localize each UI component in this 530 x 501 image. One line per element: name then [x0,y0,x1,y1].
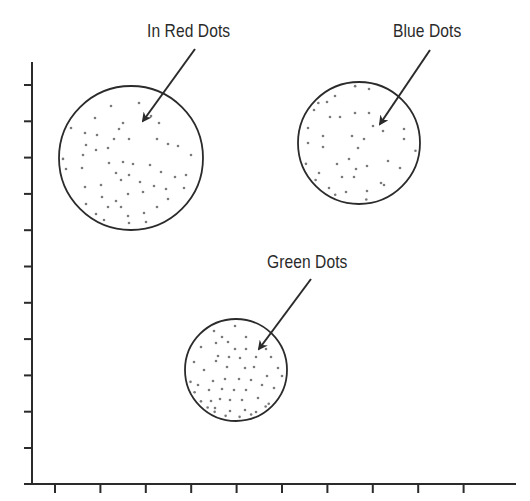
cluster-red-dot [113,138,116,141]
cluster-red-dot [174,176,177,179]
cluster-blue-dot [368,88,371,91]
cluster-green-dot [255,411,258,414]
cluster-blue-dot [414,149,417,152]
cluster-red [59,49,203,230]
cluster-green-dot [264,405,267,408]
cluster-blue-dot [357,147,360,150]
cluster-green-dot [239,357,242,360]
x-axis-ticks [55,484,464,493]
cluster-blue-dot [366,190,369,193]
cluster-red-dot [108,162,111,165]
cluster-red-dot [142,191,145,194]
cluster-green-dot [267,402,270,405]
cluster-green-dot [233,389,236,392]
cluster-green-label: Green Dots [267,251,347,273]
cluster-red-dot [128,138,131,141]
cluster-red-dot [96,134,99,137]
cluster-red-dot [139,181,142,184]
cluster-green-dot [215,360,218,363]
cluster-red-dot [65,168,68,171]
cluster-green-circle [185,319,287,421]
cluster-green-dot [229,410,232,413]
cluster-green-dot [238,378,241,381]
cluster-red-dot [165,188,168,191]
cluster-blue-dot [351,135,354,138]
cluster-red-dot [143,212,146,215]
cluster-red-dot [122,161,125,164]
cluster-green-dot [210,400,213,403]
cluster-green-dot [245,348,248,351]
cluster-blue-dot [305,163,308,166]
cluster-red-dot [95,213,98,216]
cluster-blue-dot [403,138,406,141]
cluster-blue-dot [365,198,368,201]
cluster-green-dot [215,342,218,345]
y-axis [24,62,32,484]
cluster-green-dot [212,380,215,383]
cluster-red-dot [158,122,161,125]
cluster-red-dot [185,174,188,177]
cluster-blue-dot [387,160,390,163]
cluster-green-dots [189,325,283,418]
cluster-red-dot [120,179,123,182]
cluster-blue-dot [307,127,310,130]
cluster-blue-dot [334,95,337,98]
cluster-red-dot [190,154,193,157]
cluster-blue-dot [355,168,358,171]
cluster-blue-dot [334,194,337,197]
cluster-blue-dot [314,179,317,182]
cluster-green-dot [245,389,248,392]
cluster-green-dot [214,407,217,410]
cluster-red-dot [115,200,118,203]
cluster-red-dots [62,102,193,225]
cluster-red-dot [132,163,135,166]
cluster-green-dot [228,356,231,359]
cluster-red-dot [94,117,97,120]
cluster-red-dot [128,174,131,177]
cluster-red-dot [103,219,106,222]
cluster-red-dot [153,185,156,188]
cluster-blue-dot [383,184,386,187]
cluster-blue-dot [317,102,320,105]
cluster-green-dot [221,388,224,391]
cluster-green-dot [273,387,276,390]
cluster-blue-dot [307,142,310,145]
cluster-blue-dot [329,116,332,119]
cluster-green-dot [189,381,192,384]
cluster-blue-dot [354,112,357,115]
cluster-red-dot [84,186,87,189]
cluster-green-dot [193,361,196,364]
cluster-red-dot [150,115,153,118]
cluster-green-dot [200,346,203,349]
cluster-blue-dot [313,109,316,112]
cluster-red-dot [156,138,159,141]
cluster-blue-dot [348,158,351,161]
cluster-green-dot [227,341,230,344]
y-axis-ticks [24,85,32,448]
cluster-blue-dot [322,146,325,149]
cluster-red-dot [84,132,87,135]
cluster-blue-dots [305,85,417,201]
cluster-red-dot [70,127,73,130]
cluster-blue-dot [368,112,371,115]
cluster-blue-dot [382,130,385,133]
cluster-green-dot [238,416,241,419]
cluster-green-dot [224,378,227,381]
cluster-red-dot [81,167,84,170]
cluster-red-dot [149,164,152,167]
cluster-red-dot [145,221,148,224]
cluster-red-dot [110,105,113,108]
cluster-green-dot [265,348,268,351]
cluster-blue-arrow [380,50,430,124]
cluster-red-dot [156,206,159,209]
cluster-red-dot [127,215,130,218]
cluster-red-dot [127,193,130,196]
cluster-blue-dot [339,116,342,119]
cluster-green-dot [257,397,260,400]
cluster-blue-dot [380,182,383,185]
cluster-blue-dot [353,176,356,179]
cluster-blue-dot [328,187,331,190]
cluster-red-dot [177,145,180,148]
cluster-blue [298,50,430,204]
cluster-green-dot [208,389,211,392]
